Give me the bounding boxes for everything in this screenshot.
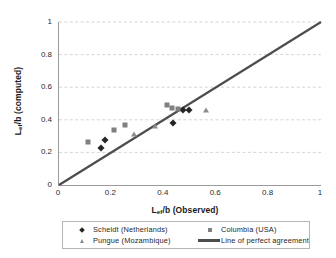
data-point: [131, 131, 137, 136]
line-icon: [197, 239, 221, 241]
y-axis-title-subscript: ef: [16, 124, 23, 130]
legend-row: Scheldt (Netherlands) Columbia (USA): [63, 224, 309, 235]
legend-label-columbia: Columbia (USA): [221, 225, 277, 234]
y-axis-title: Lef/b (computed): [13, 21, 23, 181]
square-icon: [199, 228, 221, 232]
data-point: [203, 107, 209, 112]
data-point: [97, 144, 104, 151]
y-tick-label: 0.4: [28, 115, 52, 124]
x-tick-label: 1: [308, 188, 332, 197]
data-point: [102, 137, 109, 144]
data-point: [122, 122, 127, 127]
data-point: [112, 128, 117, 133]
data-point: [176, 107, 181, 112]
legend-item-columbia: Columbia (USA): [195, 224, 309, 235]
y-tick-label: 1: [28, 17, 52, 26]
data-point: [169, 119, 176, 126]
diamond-icon: [71, 228, 93, 232]
legend-label-reference-line: Line of perfect agreement: [221, 236, 309, 245]
y-tick-label: 0.8: [28, 50, 52, 59]
x-tick-label: 0.8: [256, 188, 280, 197]
data-points-layer: [59, 22, 321, 185]
x-axis-title-rest: /b (Observed): [162, 205, 218, 215]
x-tick-label: 0.6: [203, 188, 227, 197]
x-tick-label: 0.2: [98, 188, 122, 197]
y-axis-title-rest: /b (computed): [13, 67, 23, 125]
y-tick-label: 0.2: [28, 147, 52, 156]
data-point: [85, 139, 90, 144]
x-tick-label: 0: [46, 188, 70, 197]
x-axis-title: Lef/b (Observed): [0, 205, 336, 215]
data-point: [152, 123, 158, 128]
scatter-chart-figure: 00.20.40.60.81 Lef/b (computed) 00.20.40…: [0, 0, 336, 258]
data-point: [170, 106, 175, 111]
y-tick-label: 0.6: [28, 82, 52, 91]
plot-area: [58, 22, 321, 186]
y-axis-title-lead: L: [13, 130, 23, 135]
triangle-icon: [71, 239, 93, 243]
legend-label-pungue: Pungue (Mozambique): [93, 236, 171, 245]
legend-item-reference-line: Line of perfect agreement: [193, 235, 309, 246]
legend-item-scheldt: Scheldt (Netherlands): [63, 224, 195, 235]
x-tick-label: 0.4: [151, 188, 175, 197]
legend-row: Pungue (Mozambique) Line of perfect agre…: [63, 235, 309, 246]
data-point: [185, 106, 192, 113]
legend-item-pungue: Pungue (Mozambique): [63, 235, 193, 246]
chart-legend: Scheldt (Netherlands) Columbia (USA) Pun…: [62, 221, 310, 249]
legend-label-scheldt: Scheldt (Netherlands): [93, 225, 168, 234]
